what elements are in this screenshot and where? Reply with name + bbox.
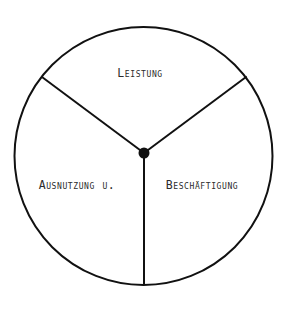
sector-label-beschaeftigung: Beschäftigung xyxy=(166,180,239,192)
diagram-canvas: Leistung Ausnutzung u. Beschäftigung xyxy=(0,0,286,310)
center-hub-dot xyxy=(139,148,150,159)
sector-label-ausnutzung: Ausnutzung u. xyxy=(39,180,116,192)
spoke-upper-right xyxy=(144,77,247,154)
spoke-upper-left xyxy=(41,77,144,154)
trisected-circle-diagram xyxy=(0,0,286,310)
sector-label-leistung: Leistung xyxy=(117,68,162,80)
